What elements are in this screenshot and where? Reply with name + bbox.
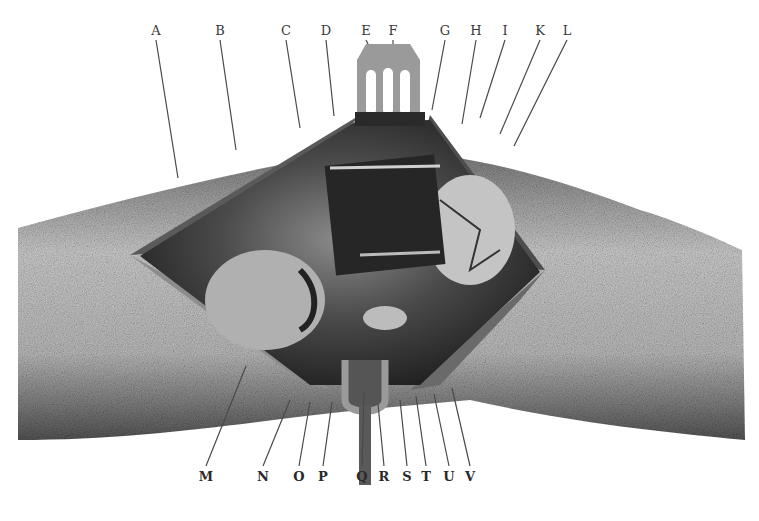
leader-line-c	[286, 40, 300, 128]
leader-line-g	[432, 40, 445, 110]
leader-line-s	[400, 400, 407, 466]
leader-line-i	[480, 40, 505, 118]
surgical-illustration: ABCDEFGHIKL MNOPQRSTUV	[0, 0, 759, 521]
leader-line-t	[416, 396, 426, 466]
leader-line-u	[434, 394, 449, 466]
arm-incision-drawing	[0, 0, 759, 521]
label-h: H	[470, 24, 481, 37]
label-b: B	[215, 24, 225, 37]
label-t: T	[421, 470, 431, 483]
label-v: V	[465, 470, 475, 483]
leader-line-d	[326, 40, 334, 116]
leader-line-r	[378, 404, 384, 466]
label-c: C	[281, 24, 291, 37]
label-a: A	[151, 24, 160, 37]
leader-line-a	[156, 40, 178, 178]
label-s: S	[402, 470, 411, 483]
label-g: G	[440, 24, 450, 37]
label-u: U	[443, 470, 454, 483]
label-n: N	[257, 470, 269, 483]
leader-line-e	[366, 40, 368, 44]
leader-line-h	[462, 40, 476, 124]
bottom-retractor	[345, 360, 385, 485]
label-r: R	[379, 470, 390, 483]
label-i: I	[502, 24, 507, 37]
label-k: K	[535, 24, 545, 37]
leader-line-k	[500, 40, 540, 134]
leader-line-b	[220, 40, 236, 150]
label-o: O	[293, 470, 304, 483]
leader-line-l	[514, 40, 567, 146]
label-m: M	[199, 470, 213, 483]
label-q: Q	[356, 470, 367, 483]
label-p: P	[318, 470, 328, 483]
label-e: E	[361, 24, 371, 37]
label-d: D	[321, 24, 331, 37]
label-f: F	[388, 24, 397, 37]
top-retractor	[355, 44, 425, 126]
label-l: L	[563, 24, 572, 37]
